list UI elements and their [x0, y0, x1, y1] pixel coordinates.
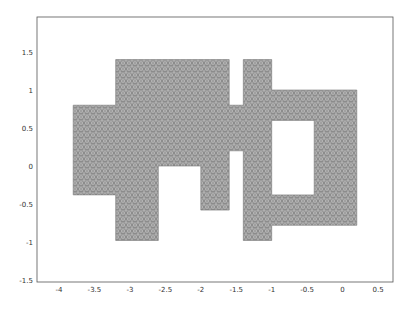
- y-tick-label: -1.5: [19, 277, 33, 285]
- x-tick-label: -3: [126, 286, 133, 294]
- x-tick-label: -2: [197, 286, 204, 294]
- y-tick-label: -0.5: [19, 201, 33, 209]
- x-axis-ticks: -4-3.5-3-2.5-2-1.5-1-0.500.5: [56, 286, 384, 294]
- x-tick-label: -3.5: [88, 286, 102, 294]
- x-tick-label: -0.5: [300, 286, 314, 294]
- x-tick-label: 0: [340, 286, 344, 294]
- x-tick-label: -1: [268, 286, 275, 294]
- y-tick-label: 0.5: [22, 125, 33, 133]
- mesh-plot: -4-3.5-3-2.5-2-1.5-1-0.500.5 -1.5-1-0.50…: [0, 0, 412, 309]
- y-tick-label: 1.5: [22, 49, 33, 57]
- y-tick-label: 0: [29, 163, 33, 171]
- x-tick-label: 0.5: [372, 286, 383, 294]
- x-tick-label: -1.5: [229, 286, 243, 294]
- y-tick-label: -1: [26, 239, 33, 247]
- x-tick-label: -4: [56, 286, 64, 294]
- x-tick-label: -2.5: [159, 286, 173, 294]
- y-tick-label: 1: [29, 87, 33, 95]
- y-axis-ticks: -1.5-1-0.500.511.5: [19, 49, 33, 285]
